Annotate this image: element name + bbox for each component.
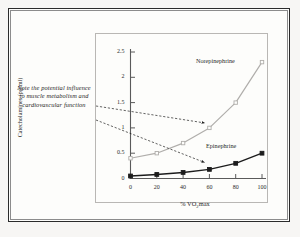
data-point-marker [208,126,211,129]
data-point-marker [234,161,238,165]
y-tick-label: 0 [109,175,125,181]
x-tick-label: 60 [201,184,217,190]
data-point-marker [260,60,263,63]
y-tick-label: 1 [109,124,125,130]
data-point-marker [181,141,184,144]
series-line-norepinephrine [131,62,263,158]
figure-root: Note the potential influence to muscle m… [0,0,300,237]
y-tick-label: 0.5 [109,149,125,155]
data-point-marker [181,171,185,175]
series-group [129,60,264,177]
y-tick-label: 2 [109,73,125,79]
data-point-marker [234,101,237,104]
data-point-marker [208,167,212,171]
x-tick-label: 100 [254,184,270,190]
y-axis-title: Catecholamines (pg/ml) [16,60,23,156]
series-label-epinephrine: Epinephrine [206,142,236,149]
x-tick-label: 20 [149,184,165,190]
data-point-marker [129,174,133,178]
x-tick-label: 40 [175,184,191,190]
data-point-marker [155,152,158,155]
annotation-note: Note the potential influence to muscle m… [14,84,94,109]
x-axis-title-tail: max [199,200,210,207]
y-tick-label: 1.5 [109,99,125,105]
x-axis-title: % VO2max [150,200,240,209]
x-axis-title-main: % VO [180,200,196,207]
data-point-marker [260,151,264,155]
data-point-marker [129,157,132,160]
annotation-arrow-norepinephrine [96,106,204,123]
series-label-norepinephrine: Norepinephrine [196,57,235,64]
series-line-epinephrine [131,153,263,176]
data-point-marker [155,173,159,177]
y-tick-label: 2.5 [109,48,125,54]
x-tick-label: 80 [228,184,244,190]
x-tick-label: 0 [123,184,139,190]
